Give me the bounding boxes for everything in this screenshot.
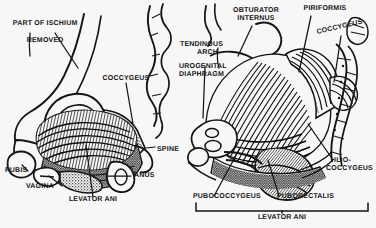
label-piriformis: PIRIFORMIS: [304, 5, 347, 13]
label-coccygeus-left: COCCYGEUS: [103, 75, 150, 83]
label-diaphragm: DIAPHRAGM: [179, 71, 224, 79]
label-levator-ani-left: LEVATOR ANI: [69, 196, 117, 204]
label-spine: SPINE: [157, 146, 179, 154]
label-pubococcygeus: PUBOCOCCYGEUS: [193, 193, 261, 201]
label-vagina: VAGINA: [26, 183, 54, 191]
label-pubis: PUBIS: [5, 167, 27, 175]
label-line-1: PART OF ISCHIUM: [13, 20, 78, 27]
label-part-of-ischium-removed: PART OF ISCHIUM REMOVED: [9, 12, 78, 45]
label-puborectalis: PUBORECTALIS: [277, 193, 334, 201]
label-coccygeus-ilio: COCCYGEUS: [326, 165, 373, 173]
label-anus: ANUS: [134, 172, 155, 180]
label-arch: ARCH: [197, 49, 218, 57]
label-internus: INTERNUS: [237, 15, 274, 23]
label-levator-ani-bracket: LEVATOR ANI: [258, 214, 306, 222]
label-line-2: REMOVED: [27, 37, 64, 44]
vagina-slit: [40, 176, 54, 177]
label-tendinous: TENDINOUS: [180, 41, 223, 49]
vaginal-opening-right: [205, 141, 221, 152]
anus-lumen: [115, 169, 127, 185]
label-obturator: OBTURATOR: [233, 7, 279, 15]
pubic-ramus-fragment: [188, 148, 209, 166]
urethral-opening: [206, 129, 219, 138]
label-urogenital: UROGENITAL: [179, 63, 227, 71]
label-ilio: ILIO-: [334, 157, 351, 165]
